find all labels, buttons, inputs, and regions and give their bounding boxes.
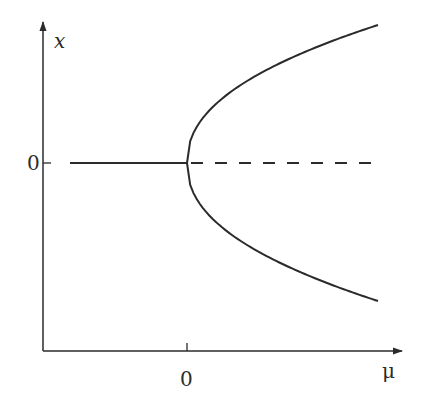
pitchfork-bifurcation-diagram: x μ 0 0: [0, 0, 422, 410]
lower-stable-branch: [187, 163, 378, 301]
upper-stable-branch: [187, 25, 378, 163]
x-axis-label: μ: [382, 359, 395, 383]
y-zero-label: 0: [27, 151, 40, 175]
x-zero-label: 0: [180, 367, 193, 391]
y-axis-label: x: [54, 29, 65, 53]
